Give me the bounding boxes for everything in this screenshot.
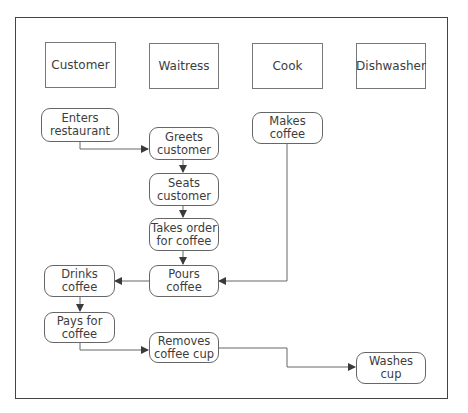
step-line: Seats: [157, 177, 211, 190]
step-line: coffee: [57, 328, 103, 341]
step-line: customer: [157, 144, 211, 157]
edge-enters-to-greets: [80, 141, 148, 149]
step-line: for coffee: [151, 235, 217, 248]
edge-makes-to-pours: [219, 143, 287, 281]
step-line: customer: [157, 190, 211, 203]
step-line: coffee: [269, 128, 305, 141]
lane-label: Waitress: [158, 60, 209, 73]
lane-label: Customer: [51, 59, 109, 72]
lane-header-waitress: Waitress: [149, 43, 219, 89]
step-line: Greets: [157, 131, 211, 144]
lane-label: Dishwasher: [356, 60, 426, 73]
step-pours-coffee: Pours coffee: [149, 265, 219, 297]
step-removes-coffee-cup: Removes coffee cup: [149, 332, 219, 363]
step-line: coffee: [61, 281, 98, 294]
lane-header-cook: Cook: [252, 43, 323, 89]
lane-label: Cook: [272, 60, 302, 73]
edge-pays-to-removes: [80, 342, 148, 350]
step-washes-cup: Washes cup: [356, 352, 426, 384]
step-takes-order: Takes order for coffee: [149, 218, 219, 251]
step-line: Removes: [154, 335, 214, 348]
step-line: coffee cup: [154, 348, 214, 361]
step-line: restaurant: [50, 125, 110, 138]
edge-removes-to-washes: [218, 348, 355, 367]
step-seats-customer: Seats customer: [149, 173, 219, 206]
step-makes-coffee: Makes coffee: [252, 112, 323, 144]
step-greets-customer: Greets customer: [149, 127, 219, 160]
step-line: Takes order: [151, 222, 217, 235]
step-line: Pays for: [57, 315, 103, 328]
step-enters-restaurant: Enters restaurant: [41, 108, 119, 142]
step-line: coffee: [166, 281, 201, 294]
step-line: Washes cup: [357, 355, 425, 381]
step-pays-for-coffee: Pays for coffee: [44, 312, 115, 343]
lane-header-dishwasher: Dishwasher: [356, 43, 426, 89]
step-drinks-coffee: Drinks coffee: [44, 265, 115, 297]
lane-header-customer: Customer: [45, 42, 116, 88]
